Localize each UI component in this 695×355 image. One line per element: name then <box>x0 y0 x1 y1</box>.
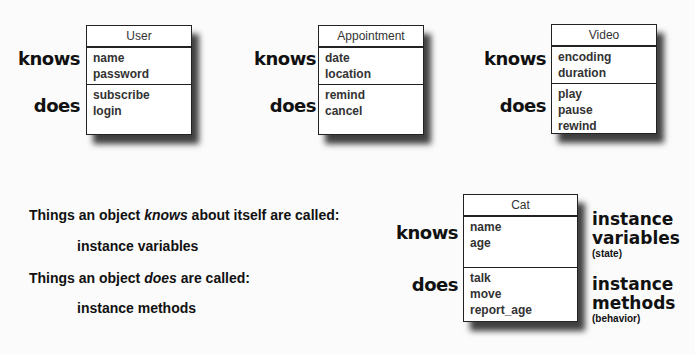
variable-item: encoding <box>558 49 650 65</box>
knows-label-video: knows <box>480 48 546 69</box>
class-box-user: User name password subscribe login <box>86 25 192 135</box>
class-name: User <box>87 26 191 48</box>
variable-item: age <box>470 235 571 251</box>
method-item: pause <box>558 102 650 118</box>
method-item: rewind <box>558 118 650 134</box>
class-box-appointment: Appointment date location remind cancel <box>318 25 424 135</box>
method-item: cancel <box>325 103 417 119</box>
method-item: login <box>93 103 185 119</box>
class-name: Appointment <box>319 26 423 48</box>
knows-label-cat: knows <box>392 222 458 243</box>
variable-item: name <box>470 219 571 235</box>
method-item: play <box>558 86 650 102</box>
method-item: subscribe <box>93 87 185 103</box>
instance-variables-section: name password <box>87 48 191 85</box>
class-box-video: Video encoding duration play pause rewin… <box>551 24 657 134</box>
method-item: move <box>470 286 571 302</box>
method-item: report_age <box>470 302 571 318</box>
instance-variables-section: encoding duration <box>552 47 656 84</box>
annotation-instance-methods: instance methods (behavior) <box>592 275 675 324</box>
instance-methods-section: remind cancel <box>319 85 423 121</box>
variable-item: duration <box>558 65 650 81</box>
explanation-does: Things an object does are called: <box>29 270 250 286</box>
class-name: Cat <box>464 195 577 217</box>
knows-label-appointment: knows <box>250 48 316 69</box>
does-label-cat: does <box>392 274 458 295</box>
annotation-instance-variables: instance variables (state) <box>592 210 680 259</box>
explanation-knows: Things an object knows about itself are … <box>29 207 339 223</box>
does-label-user: does <box>14 95 80 116</box>
variable-item: name <box>93 50 185 66</box>
class-box-cat: Cat name age talk move report_age <box>463 194 578 322</box>
term-instance-variables: instance variables <box>77 238 198 254</box>
instance-methods-section: talk move report_age <box>464 268 577 320</box>
instance-variables-section: name age <box>464 217 577 268</box>
variable-item: date <box>325 50 417 66</box>
method-item: talk <box>470 270 571 286</box>
term-instance-methods: instance methods <box>77 300 196 316</box>
instance-variables-section: date location <box>319 48 423 85</box>
knows-label-user: knows <box>14 48 80 69</box>
method-item: remind <box>325 87 417 103</box>
class-name: Video <box>552 25 656 47</box>
instance-methods-section: subscribe login <box>87 85 191 121</box>
variable-item: location <box>325 66 417 82</box>
variable-item: password <box>93 66 185 82</box>
does-label-video: does <box>480 95 546 116</box>
does-label-appointment: does <box>250 95 316 116</box>
instance-methods-section: play pause rewind <box>552 84 656 136</box>
